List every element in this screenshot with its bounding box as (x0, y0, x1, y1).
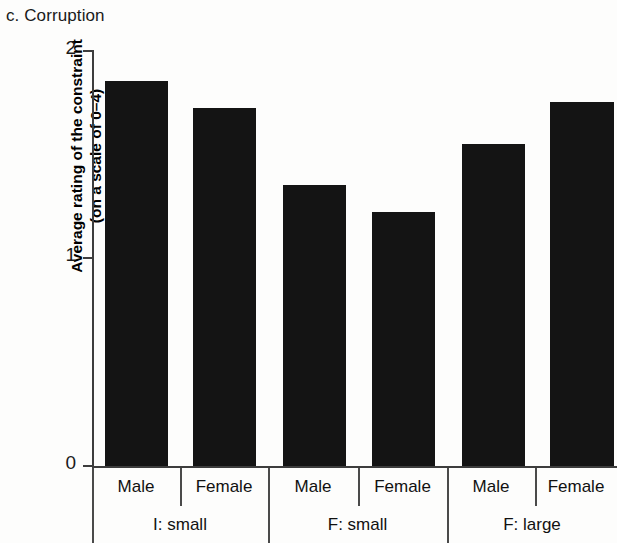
x-label-female-3: Female (535, 468, 617, 506)
y-tick-0: 0 (83, 465, 92, 467)
bar-3[interactable] (372, 212, 435, 466)
y-tick-label-2: 2 (65, 38, 76, 57)
x-group-label-i-small: I: small (92, 506, 268, 543)
plot-area: 0 1 2 (92, 50, 617, 466)
x-label-male-2: Male (268, 468, 358, 506)
bar-0[interactable] (105, 81, 168, 466)
x-axis-labels: Male Female Male Female Male Female I: s… (92, 468, 617, 543)
y-tick-2: 2 (83, 50, 92, 52)
bar-5[interactable] (550, 102, 614, 466)
x-axis-subgroup-row: Male Female Male Female Male Female (92, 468, 617, 506)
x-axis-group-row: I: small F: small F: large (92, 506, 617, 543)
y-tick-1: 1 (83, 257, 92, 259)
bar-4[interactable] (462, 144, 525, 466)
x-axis-rule-group-1 (268, 468, 270, 543)
bar-2[interactable] (283, 185, 346, 466)
y-tick-label-1: 1 (65, 245, 76, 264)
bar-1[interactable] (193, 108, 256, 466)
x-label-female-1: Female (180, 468, 268, 506)
y-tick-label-0: 0 (65, 453, 76, 472)
x-axis-rule-left (92, 468, 94, 543)
x-group-label-f-large: F: large (447, 506, 617, 543)
x-axis-rule-inner-2 (358, 468, 360, 506)
x-label-female-2: Female (358, 468, 447, 506)
y-axis-line (92, 50, 94, 466)
y-axis-label-line-1: Average rating of the constraint (67, 39, 86, 273)
x-axis-rule-group-2 (447, 468, 449, 543)
page-title: c. Corruption (6, 6, 105, 26)
x-group-label-f-small: F: small (268, 506, 447, 543)
figure-panel: c. Corruption Average rating of the cons… (0, 0, 617, 543)
x-axis-rule-inner-1 (180, 468, 182, 506)
x-axis-rule-inner-3 (535, 468, 537, 506)
x-label-male-1: Male (92, 468, 180, 506)
x-label-male-3: Male (447, 468, 535, 506)
